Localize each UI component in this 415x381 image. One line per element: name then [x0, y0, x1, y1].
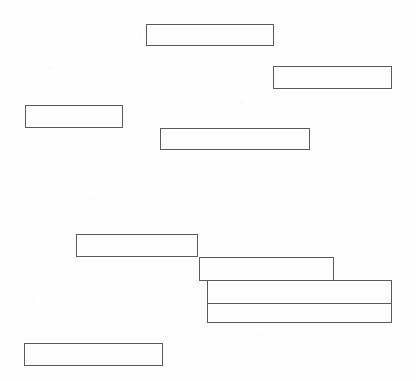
- field-box-stack-step-three-divider: [207, 303, 392, 304]
- field-box-top-right[interactable]: [273, 66, 392, 89]
- field-box-stack-step-one[interactable]: [76, 234, 198, 257]
- field-box-stack-step-three[interactable]: [207, 280, 392, 323]
- field-box-top-center[interactable]: [146, 24, 274, 46]
- field-box-bottom-left[interactable]: [24, 343, 163, 366]
- field-box-middle-center[interactable]: [160, 128, 310, 150]
- field-box-stack-step-two[interactable]: [199, 257, 334, 281]
- field-box-left-upper[interactable]: [25, 105, 123, 128]
- document-canvas: [0, 0, 415, 381]
